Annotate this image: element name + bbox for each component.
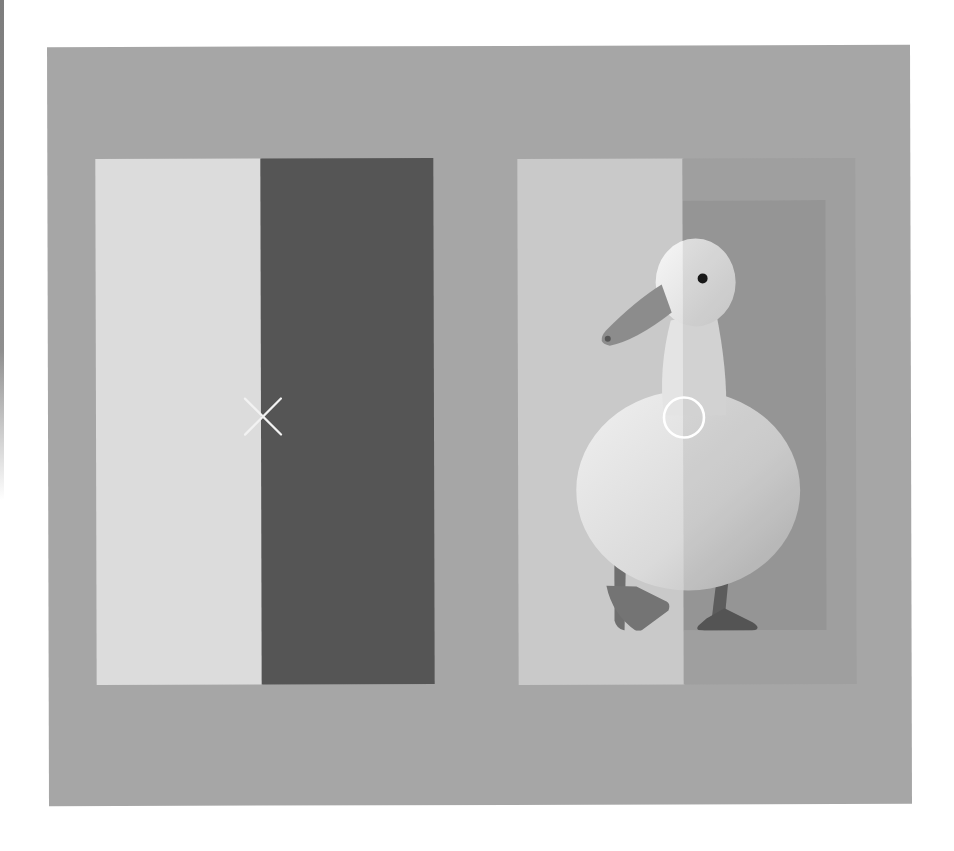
left-dark-rectangle [260,158,434,684]
left-edge-strip [0,0,4,500]
illusion-image [0,0,954,851]
gray-background-panel [47,45,912,806]
circle-mark-icon [662,395,706,439]
x-mark-icon [243,397,283,437]
left-light-rectangle [95,159,262,685]
